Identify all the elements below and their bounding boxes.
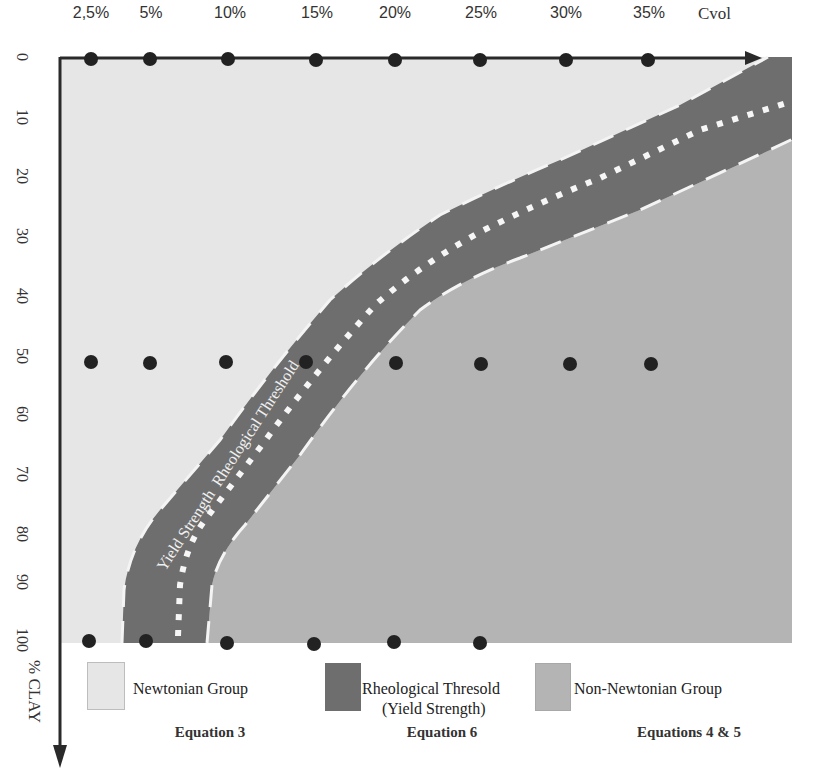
legend-label-non-newtonian: Non-Newtonian Group: [574, 680, 722, 698]
sample-point: [387, 635, 401, 649]
legend-label-newtonian: Newtonian Group: [133, 680, 248, 698]
sample-point: [219, 355, 233, 369]
legend-swatch-non-newtonian: [535, 663, 571, 711]
y-tick-label: 70: [12, 462, 32, 486]
sample-point: [84, 355, 98, 369]
y-axis-arrowhead: [53, 745, 67, 768]
sample-point: [82, 634, 96, 648]
legend-equation-threshold: Equation 6: [407, 724, 477, 741]
x-tick-label: 25%: [465, 4, 497, 22]
legend-equation-non-newtonian: Equations 4 & 5: [637, 724, 741, 741]
y-tick-label: 20: [12, 164, 32, 188]
x-tick-label: 10%: [214, 4, 246, 22]
y-tick-label: 50: [12, 344, 32, 368]
sample-point: [641, 53, 655, 67]
sample-point: [388, 53, 402, 67]
legend-swatch-newtonian: [87, 662, 125, 710]
sample-point: [389, 356, 403, 370]
sample-point: [563, 357, 577, 371]
sample-point: [474, 357, 488, 371]
sample-point: [307, 637, 321, 651]
sample-point: [309, 53, 323, 67]
y-tick-label: 0: [12, 45, 32, 69]
legend-label-threshold-line2: (Yield Strength): [382, 700, 486, 718]
legend-label-threshold: Rheological Thresold: [362, 680, 500, 698]
y-tick-label: 90: [12, 570, 32, 594]
y-tick-label: 80: [12, 522, 32, 546]
legend-swatch-threshold: [325, 663, 361, 711]
sample-point: [473, 636, 487, 650]
y-tick-label: 10: [12, 105, 32, 129]
x-axis-title: Cvol: [698, 4, 731, 24]
sample-point: [221, 52, 235, 66]
sample-point: [143, 356, 157, 370]
legend-equation-newtonian: Equation 3: [175, 724, 245, 741]
y-tick-label: 40: [12, 284, 32, 308]
sample-point: [473, 53, 487, 67]
x-tick-label: 20%: [379, 4, 411, 22]
y-axis-title: % CLAY: [24, 660, 44, 723]
sample-point: [220, 636, 234, 650]
y-tick-label: 60: [12, 402, 32, 426]
sample-point: [139, 634, 153, 648]
y-tick-label: 100: [12, 628, 32, 652]
x-tick-label: 35%: [633, 4, 665, 22]
x-tick-label: 15%: [301, 4, 333, 22]
x-tick-label: 2,5%: [73, 4, 109, 22]
sample-point: [299, 355, 313, 369]
x-tick-label: 5%: [139, 4, 162, 22]
y-tick-label: 30: [12, 224, 32, 248]
x-tick-label: 30%: [550, 4, 582, 22]
sample-point: [143, 52, 157, 66]
sample-point: [84, 52, 98, 66]
sample-point: [644, 357, 658, 371]
sample-point: [559, 53, 573, 67]
